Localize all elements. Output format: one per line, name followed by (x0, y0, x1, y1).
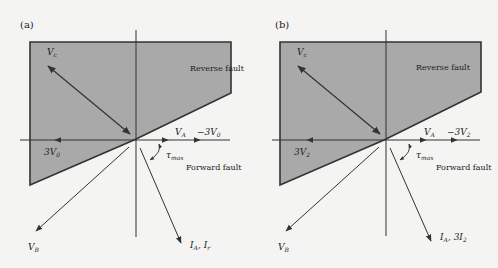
current-label: IA, 3I2 (439, 232, 467, 243)
forward-fault-label: Forward fault (436, 163, 492, 172)
neg-seq-voltage-label: −3V2 (447, 127, 471, 138)
va-label: VA (175, 127, 187, 138)
reverse-fault-label: Reverse fault (416, 63, 471, 72)
phasor-diagram: (a) Reverse fault Forward fault Vc VB VA… (0, 0, 498, 268)
vb-label: VB (278, 242, 290, 253)
current-phasor-arrow (390, 148, 431, 241)
panel-label: (a) (20, 19, 34, 30)
tau-max-label: τmax (166, 150, 184, 161)
tau-max-angle-arc (150, 144, 160, 160)
current-label: IA, Ir (189, 240, 211, 251)
panel-label: (b) (275, 19, 289, 30)
forward-fault-label: Forward fault (186, 163, 242, 172)
panel-a: (a) Reverse fault Forward fault Vc VB VA… (20, 19, 245, 253)
current-phasor-arrow (140, 148, 181, 243)
tau-max-label: τmax (416, 150, 434, 161)
vb-label: VB (28, 242, 40, 253)
panel-b: (b) Reverse fault Forward fault Vc VB VA… (272, 19, 492, 253)
tau-max-angle-arc (400, 144, 410, 160)
neg-seq-voltage-label: −3V0 (197, 127, 221, 138)
reverse-fault-label: Reverse fault (190, 64, 245, 73)
va-label: VA (424, 127, 436, 138)
